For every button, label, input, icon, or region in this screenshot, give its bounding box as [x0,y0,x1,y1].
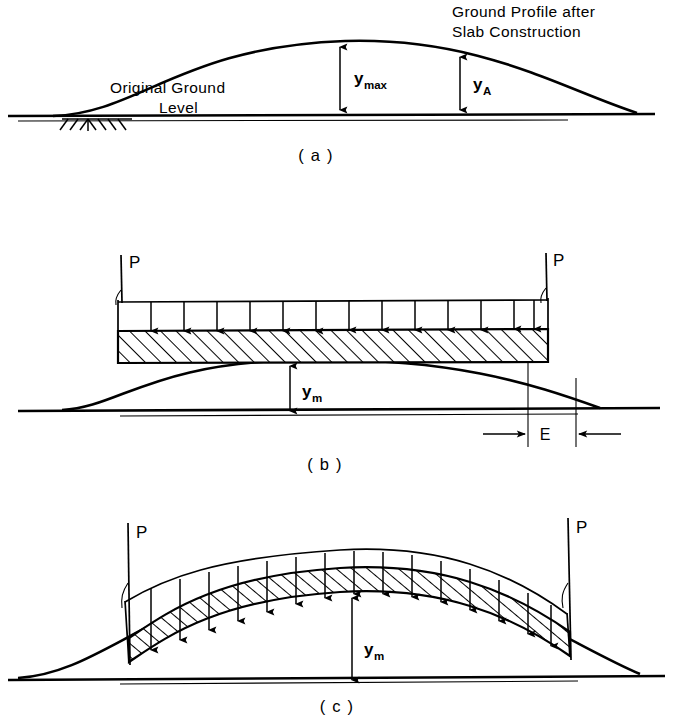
panel-b-load-top-line [118,300,548,302]
panel-a-ground-line-secondary [18,120,568,121]
dimension-y-a: y A [460,57,491,110]
panel-b-dimension-E: E [483,362,621,447]
figure-root: y max y A Ground Profile after Slab Cons… [0,0,686,722]
panel-b-slab-hatched [118,329,548,363]
engineering-diagram-svg: y max y A Ground Profile after Slab Cons… [0,0,686,722]
panel-b-ground-line [18,408,660,411]
annotation-original-ground-line1: Original Ground [110,79,225,96]
panel-c-slab-hatched [129,567,570,662]
panel-b-load-P-left: P [116,253,141,305]
panel-b-y-m-subscript: m [312,392,322,404]
panel-c-y-m-subscript: m [374,650,384,662]
panel-c-y-m-symbol: y [364,640,374,659]
panel-c-P-left-label: P [136,523,148,542]
panel-b-P-left-label: P [129,253,141,272]
panel-b-dimension-y-m: y m [290,366,322,411]
y-a-subscript: A [483,85,491,97]
panel-c: P P y m ( c ) [8,518,665,715]
panel-a-ground-line [8,114,655,116]
panel-a: y max y A Ground Profile after Slab Cons… [8,3,655,164]
annotation-original-ground-line2: Level [159,99,198,116]
panel-b-ground-line-secondary [120,414,578,416]
panel-a-caption: ( a ) [298,146,333,164]
panel-c-ground-line [8,676,665,680]
panel-b: P P y m E ( b ) [18,251,660,473]
dimension-y-max: y max [340,47,388,110]
panel-b-heaved-profile-curve [62,360,600,410]
y-max-symbol: y [354,69,364,88]
panel-b-caption: ( b ) [307,455,342,473]
panel-b-load-P-right: P [541,251,565,303]
panel-c-P-right-label: P [576,518,588,537]
panel-b-E-label: E [540,426,551,443]
panel-b-y-m-symbol: y [302,382,312,401]
panel-b-P-right-label: P [553,251,565,270]
panel-b-distributed-load-arrows [151,300,534,331]
panel-c-caption: ( c ) [320,697,354,715]
y-max-subscript: max [364,79,388,91]
annotation-ground-profile-line1: Ground Profile after [452,3,595,20]
annotation-ground-profile-line2: Slab Construction [452,23,581,40]
y-a-symbol: y [473,75,483,94]
panel-c-ground-line-secondary [120,681,578,684]
panel-c-dimension-y-m: y m [352,598,384,680]
